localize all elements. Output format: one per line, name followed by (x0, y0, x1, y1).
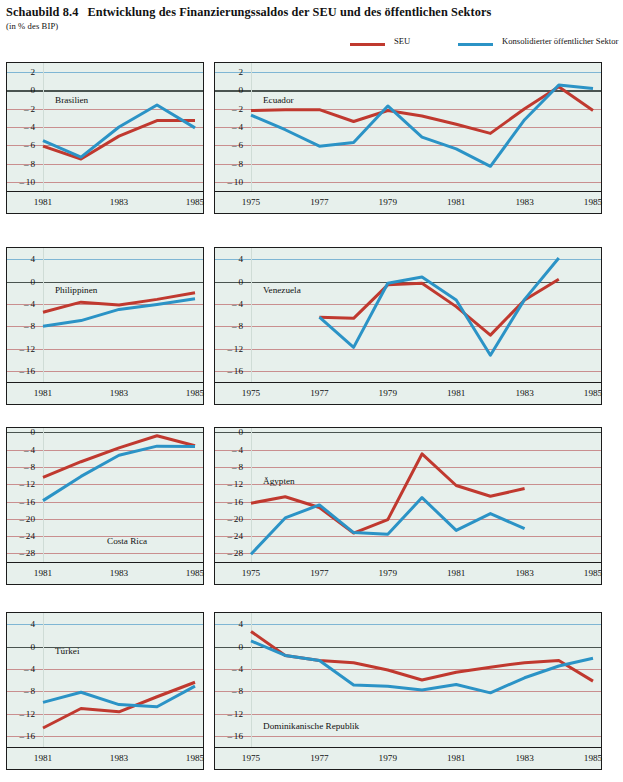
series-line-konsolidiert (43, 299, 195, 326)
figure-title: Schaubild 8.4Entwicklung des Finanzierun… (6, 5, 491, 20)
series-layer (215, 63, 601, 191)
chart-panel-philippinen: 40– 4– 8– 12– 16198119831985Philippinen (6, 247, 204, 405)
series-layer (7, 248, 203, 382)
x-axis-tick-label: 1983 (515, 568, 533, 578)
legend: SEU Konsolidierter öffentlicher Sektor (350, 35, 608, 60)
x-axis-tick-label: 1985 (584, 568, 602, 578)
x-axis-line (7, 747, 203, 748)
figure-title-text: Entwicklung des Finanzierungssaldos der … (87, 5, 491, 19)
x-axis-tick-label: 1983 (110, 197, 128, 207)
series-line-seu (251, 631, 593, 681)
series-line-konsolidiert (43, 105, 195, 157)
x-axis-tick-label: 1981 (34, 197, 52, 207)
series-layer (7, 63, 203, 191)
x-axis-tick-label: 1981 (447, 568, 465, 578)
series-line-konsolidiert (43, 446, 195, 500)
chart-panel-brasilien: 20– 2– 4– 6– 8– 10198119831985Brasilien (6, 62, 204, 214)
x-axis-tick-label: 1983 (110, 753, 128, 763)
figure-header: Schaubild 8.4Entwicklung des Finanzierun… (0, 0, 608, 60)
series-layer (7, 428, 203, 562)
x-axis-tick-label: 1983 (515, 388, 533, 398)
x-axis-tick-label: 1981 (447, 197, 465, 207)
series-layer (215, 248, 601, 382)
x-axis-tick-label: 1979 (379, 753, 397, 763)
chart-panel-ecuador: 20– 2– 4– 6– 8– 101975197719791981198319… (214, 62, 602, 214)
legend-swatch-seu (350, 43, 385, 46)
x-axis-tick-label: 1981 (34, 388, 52, 398)
x-axis-tick-label: 1985 (186, 388, 204, 398)
x-axis-line (7, 191, 203, 192)
x-axis-tick-label: 1983 (110, 388, 128, 398)
x-axis-tick-label: 1981 (34, 568, 52, 578)
chart-panel-tuerkei: 40– 4– 8– 12– 16198119831985Türkei (6, 612, 204, 770)
x-axis-line (7, 382, 203, 383)
x-axis-line (7, 562, 203, 563)
x-axis-tick-label: 1985 (186, 753, 204, 763)
x-axis-tick-label: 1979 (379, 197, 397, 207)
x-axis-tick-label: 1981 (447, 388, 465, 398)
x-axis-tick-label: 1985 (186, 197, 204, 207)
x-axis-tick-label: 1981 (34, 753, 52, 763)
series-line-seu (251, 454, 525, 533)
x-axis-tick-label: 1981 (447, 753, 465, 763)
x-axis-tick-label: 1975 (242, 753, 260, 763)
x-axis-tick-label: 1975 (242, 568, 260, 578)
x-axis-tick-label: 1975 (242, 388, 260, 398)
x-axis-tick-label: 1977 (310, 388, 328, 398)
x-axis-line (215, 747, 601, 748)
figure-subtitle: (in % des BIP) (6, 21, 58, 31)
series-line-konsolidiert (43, 686, 195, 707)
series-layer (7, 613, 203, 747)
series-layer (215, 428, 601, 562)
x-axis-tick-label: 1985 (584, 388, 602, 398)
x-axis-tick-label: 1977 (310, 568, 328, 578)
x-axis-line (215, 191, 601, 192)
chart-panel-dominikanische-republik: 40– 4– 8– 12– 16197519771979198119831985… (214, 612, 602, 770)
x-axis-tick-label: 1983 (515, 197, 533, 207)
x-axis-tick-label: 1977 (310, 197, 328, 207)
series-layer (215, 613, 601, 747)
series-line-seu (251, 87, 593, 134)
x-axis-tick-label: 1985 (186, 568, 204, 578)
x-axis-tick-label: 1983 (110, 568, 128, 578)
series-line-konsolidiert (319, 258, 558, 355)
figure-number: Schaubild 8.4 (6, 5, 78, 19)
x-axis-tick-label: 1977 (310, 753, 328, 763)
x-axis-line (215, 562, 601, 563)
x-axis-tick-label: 1985 (584, 197, 602, 207)
series-line-konsolidiert (251, 641, 593, 693)
x-axis-tick-label: 1979 (379, 388, 397, 398)
chart-panel-aegypten: 0– 4– 8– 12– 16– 20– 24– 281975197719791… (214, 427, 602, 585)
x-axis-tick-label: 1985 (584, 753, 602, 763)
legend-label-konsolidiert: Konsolidierter öffentlicher Sektor (502, 36, 623, 47)
x-axis-tick-label: 1979 (379, 568, 397, 578)
x-axis-tick-label: 1983 (515, 753, 533, 763)
x-axis-line (215, 382, 601, 383)
x-axis-tick-label: 1975 (242, 197, 260, 207)
chart-panel-costa-rica: 0– 4– 8– 12– 16– 20– 24– 28198119831985C… (6, 427, 204, 585)
legend-swatch-konsolidiert (458, 43, 493, 46)
series-line-konsolidiert (251, 498, 525, 555)
chart-panel-venezuela: 40– 4– 8– 12– 16197519771979198119831985… (214, 247, 602, 405)
